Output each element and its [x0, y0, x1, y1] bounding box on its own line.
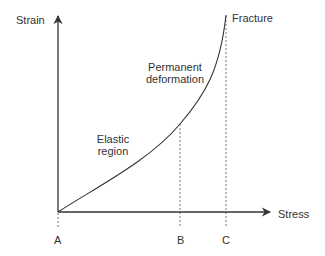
elastic-region-line2: region [88, 145, 138, 157]
stress-strain-curve [58, 15, 226, 212]
stress-strain-diagram [0, 0, 325, 256]
permanent-deformation-label: Permanent deformation [142, 61, 208, 85]
y-axis-label: Strain [16, 14, 45, 26]
fracture-label: Fracture [232, 12, 273, 24]
point-b-label: B [177, 234, 184, 246]
elastic-region-line1: Elastic [88, 133, 138, 145]
point-a-label: A [54, 234, 61, 246]
permanent-deformation-line1: Permanent [142, 61, 208, 73]
permanent-deformation-line2: deformation [142, 73, 208, 85]
x-axis-label: Stress [278, 208, 309, 220]
elastic-region-label: Elastic region [88, 133, 138, 157]
point-c-label: C [222, 234, 230, 246]
